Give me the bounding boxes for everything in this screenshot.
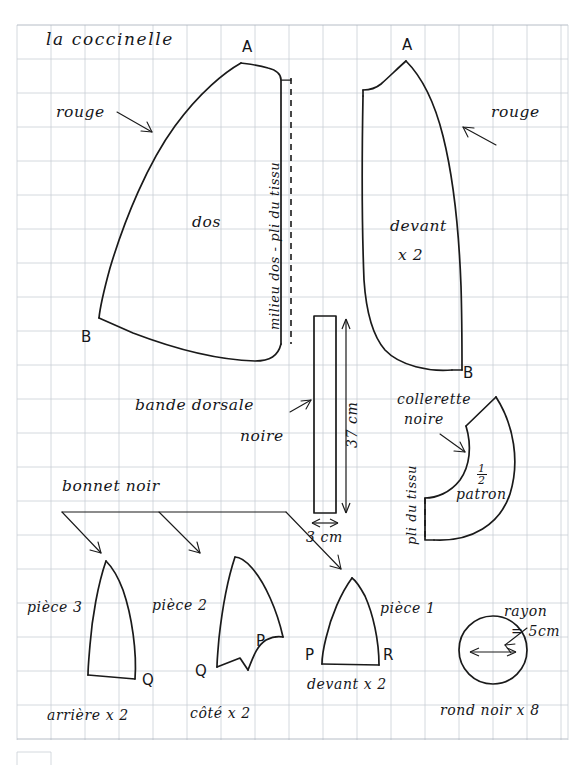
rond-noir-caption: rond noir x 8: [440, 703, 540, 718]
fraction-denominator: 2: [477, 475, 487, 486]
piece-devant-outline: [362, 61, 462, 370]
rond-noir-radius-label: rayon: [504, 604, 547, 619]
rond-noir-radius-value: = 5cm: [511, 624, 560, 639]
dos-label: dos: [192, 214, 221, 230]
piece-2-caption: côté x 2: [190, 706, 251, 721]
page-title: la coccinelle: [46, 31, 174, 49]
piece-1-outline: [322, 578, 379, 665]
piece-2-point-p: P: [256, 634, 265, 649]
piece-3-label: pièce 3: [27, 600, 82, 615]
collerette-label: collerette: [397, 392, 471, 407]
bande-width-dimension: [312, 519, 338, 527]
bonnet-group-label: bonnet noir: [62, 478, 160, 494]
piece-1-label: pièce 1: [380, 601, 435, 616]
bande-dorsale-arrow: [290, 400, 311, 412]
piece-1-caption: devant x 2: [307, 677, 387, 692]
collerette-fold-note: pli du tissu: [405, 465, 419, 545]
piece-dos-outline: [99, 63, 291, 361]
dos-fabric-note: rouge: [56, 104, 105, 120]
bande-width-label: 3 cm: [306, 530, 343, 545]
piece-1-point-r: R: [383, 648, 393, 663]
bonnet-noir-bracket: [62, 512, 341, 569]
bande-height-label: 37 cm: [345, 402, 360, 448]
piece-3-point-q: Q: [142, 673, 154, 688]
bande-dorsale-label-2: noire: [240, 428, 284, 444]
devant-label: devant: [390, 218, 447, 234]
collerette-arrow: [440, 434, 465, 452]
rouge-arrow-left: [117, 112, 152, 132]
devant-fabric-note: rouge: [491, 104, 540, 120]
dos-fold-note: milieu dos - pli du tissu: [268, 162, 282, 330]
piece-2-outline: [217, 557, 283, 670]
piece-1-point-p: P: [305, 648, 314, 663]
piece-2-label: pièce 2: [152, 598, 207, 613]
bande-dorsale-label: bande dorsale: [135, 397, 254, 413]
piece-bande-dorsale-outline: [314, 316, 336, 513]
collerette-half-pattern-word: patron: [456, 487, 507, 502]
piece-3-outline: [88, 561, 135, 679]
devant-point-b-label: B: [463, 366, 473, 381]
pattern-sheet: la coccinelle A A rouge rouge dos milieu…: [0, 0, 585, 765]
graph-paper-grid: [17, 25, 568, 765]
devant-quantity: x 2: [398, 247, 423, 263]
dos-point-a-label: A: [242, 40, 252, 55]
dos-point-b-label: B: [81, 330, 91, 345]
rouge-arrow-right: [463, 127, 496, 145]
devant-point-a-label: A: [402, 38, 412, 53]
piece-2-point-q: Q: [195, 664, 207, 679]
piece-3-caption: arrière x 2: [47, 708, 129, 723]
collerette-label-2: noire: [404, 412, 444, 427]
collerette-half-pattern-fraction: 1 2: [477, 463, 487, 486]
